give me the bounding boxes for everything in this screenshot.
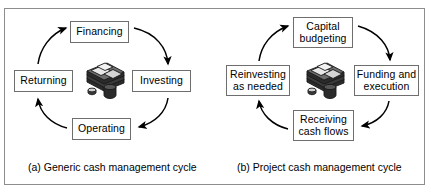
node-returning[interactable]: Returning — [14, 70, 73, 92]
money-stack-icon — [80, 58, 128, 100]
node-receiving-cash-flows-label: Receiving cash flows — [298, 114, 348, 137]
node-reinvesting[interactable]: Reinvesting as needed — [226, 65, 290, 96]
money-stack-icon — [300, 58, 348, 100]
node-capital-budgeting-label: Capital budgeting — [299, 21, 346, 44]
node-operating[interactable]: Operating — [72, 118, 131, 140]
caption-panel-b: (b) Project cash management cycle — [237, 161, 402, 173]
node-receiving-cash-flows[interactable]: Receiving cash flows — [293, 110, 354, 141]
figure-root: Financing Investing Operating Returning — [0, 0, 431, 193]
node-capital-budgeting[interactable]: Capital budgeting — [293, 17, 353, 48]
node-returning-label: Returning — [20, 75, 66, 87]
caption-panel-a: (a) Generic cash management cycle — [28, 161, 197, 173]
node-financing-label: Financing — [76, 26, 122, 38]
node-funding-execution[interactable]: Funding and execution — [354, 65, 419, 96]
node-reinvesting-label: Reinvesting as needed — [230, 69, 286, 92]
node-investing[interactable]: Investing — [132, 70, 191, 92]
node-funding-execution-label: Funding and execution — [357, 69, 416, 92]
node-financing[interactable]: Financing — [70, 21, 129, 43]
node-operating-label: Operating — [78, 123, 125, 135]
node-investing-label: Investing — [140, 75, 183, 87]
